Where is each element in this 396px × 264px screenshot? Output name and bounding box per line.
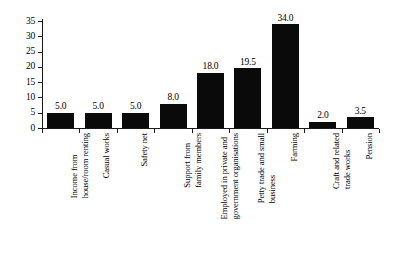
category-label-line: government organisations — [230, 133, 241, 219]
category-label-line: trade works — [342, 133, 353, 189]
category-label-line: Pension — [364, 133, 375, 160]
bar-item: 34.0 — [272, 24, 299, 128]
y-tick-label: 30 — [26, 32, 35, 42]
category-label-2: Safety net — [139, 133, 150, 167]
y-tick-label: 10 — [26, 93, 35, 103]
y-tick-20: 20 — [38, 67, 43, 68]
y-tick-35: 35 — [38, 21, 43, 22]
bar-value-label: 3.5 — [355, 107, 366, 117]
bar-value-label: 19.5 — [240, 58, 256, 68]
category-label-line: house/room renting — [80, 133, 91, 198]
category-label-line: family members — [192, 133, 203, 188]
bar-value-label: 5.0 — [93, 102, 104, 112]
y-tick-15: 15 — [38, 82, 43, 83]
bar — [122, 113, 149, 128]
bar-item: 3.5 — [347, 117, 374, 128]
y-tick-label: 15 — [26, 78, 35, 88]
bar-item: 5.0 — [122, 113, 149, 128]
bar-value-label: 8.0 — [167, 93, 178, 103]
x-axis-line — [42, 128, 379, 129]
x-tick — [42, 129, 43, 133]
category-label-line: business — [267, 133, 278, 203]
bar — [234, 68, 261, 128]
y-tick-label: 25 — [26, 47, 35, 57]
bar — [197, 73, 224, 128]
y-tick-10: 10 — [38, 97, 43, 98]
bar-item: 8.0 — [160, 104, 187, 128]
category-label-0: Income fromhouse/room renting — [69, 133, 90, 198]
x-tick — [304, 129, 305, 133]
bar-item: 5.0 — [85, 113, 112, 128]
bar-chart: 05101520253035 5.05.05.08.018.019.534.02… — [0, 0, 396, 264]
bar-value-label: 2.0 — [317, 111, 328, 121]
category-label-6: Farming — [289, 133, 300, 161]
y-tick-label: 5 — [30, 108, 35, 118]
category-label-5: Petty trade and smallbusiness — [256, 133, 277, 203]
bar — [160, 104, 187, 128]
bar-value-label: 5.0 — [130, 102, 141, 112]
bar-item: 5.0 — [47, 113, 74, 128]
bar-item: 19.5 — [234, 68, 261, 128]
category-label-3: Support fromfamily members — [182, 133, 203, 188]
bar — [272, 24, 299, 128]
bar-value-label: 34.0 — [277, 14, 293, 24]
bar-value-label: 18.0 — [203, 62, 219, 72]
category-label-1: Casual works — [101, 133, 112, 178]
category-label-line: Support from — [182, 133, 193, 188]
bar — [85, 113, 112, 128]
category-label-line: Employed in private and — [219, 133, 230, 219]
x-tick — [379, 129, 380, 133]
bar — [309, 122, 336, 128]
category-label-line: Craft and related — [331, 133, 342, 189]
category-label-line: Casual works — [101, 133, 112, 178]
x-tick — [117, 129, 118, 133]
y-tick-label: 35 — [26, 17, 35, 27]
y-tick-5: 5 — [38, 113, 43, 114]
x-tick — [154, 129, 155, 133]
bar-item: 18.0 — [197, 73, 224, 128]
category-label-line: Farming — [289, 133, 300, 161]
bar-value-label: 5.0 — [55, 102, 66, 112]
category-label-7: Craft and relatedtrade works — [331, 133, 352, 189]
category-label-line: Safety net — [139, 133, 150, 167]
category-label-4: Employed in private andgovernment organi… — [219, 133, 240, 219]
y-tick-label: 20 — [26, 63, 35, 73]
category-label-8: Pension — [364, 133, 375, 160]
category-label-line: Income from — [69, 133, 80, 198]
bar — [347, 117, 374, 128]
y-tick-25: 25 — [38, 52, 43, 53]
bar — [47, 113, 74, 128]
y-tick-30: 30 — [38, 36, 43, 37]
y-tick-label: 0 — [30, 124, 35, 134]
bar-item: 2.0 — [309, 122, 336, 128]
category-label-line: Petty trade and small — [256, 133, 267, 203]
